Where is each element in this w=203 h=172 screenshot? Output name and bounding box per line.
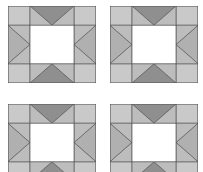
quilt-block-bottom-left (8, 104, 96, 172)
corner-triangle-top-right (74, 6, 96, 25)
center-white-square (30, 123, 74, 162)
corner-triangle-top-left (110, 6, 132, 25)
corner-triangle-top-left (110, 104, 132, 123)
corner-triangle-bottom-right (74, 162, 96, 172)
quilt-block-top-left (8, 6, 96, 83)
quilt-block-bottom-right (110, 104, 198, 172)
corner-triangle-bottom-right (176, 64, 198, 83)
corner-triangle-top-right (74, 104, 96, 123)
corner-triangle-top-left (8, 6, 30, 25)
corner-triangle-top-right (176, 6, 198, 25)
quilt-block-svg (110, 104, 198, 172)
quilt-block-svg (8, 104, 96, 172)
corner-triangle-top-left (8, 104, 30, 123)
corner-triangle-top-right (176, 104, 198, 123)
center-white-square (30, 25, 74, 64)
corner-triangle-bottom-left (110, 162, 132, 172)
corner-triangle-bottom-left (8, 64, 30, 83)
quilt-block-top-right (110, 6, 198, 83)
quilt-block-svg (8, 6, 96, 83)
corner-triangle-bottom-left (110, 64, 132, 83)
quilt-block-svg (110, 6, 198, 83)
pattern-canvas (0, 0, 203, 172)
corner-triangle-bottom-left (8, 162, 30, 172)
center-white-square (132, 25, 176, 64)
corner-triangle-bottom-right (176, 162, 198, 172)
corner-triangle-bottom-right (74, 64, 96, 83)
center-white-square (132, 123, 176, 162)
